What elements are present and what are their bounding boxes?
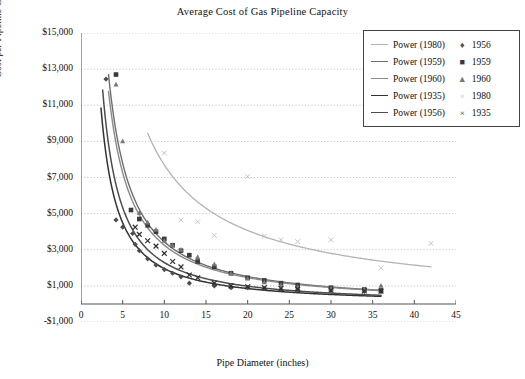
y-tick-label: $7,000 xyxy=(0,172,73,182)
fit-curve-power-1960 xyxy=(109,91,382,290)
y-tick-label: $9,000 xyxy=(0,135,73,145)
y-tick-label: $11,000 xyxy=(0,99,73,109)
fit-curve-power-1959 xyxy=(109,74,382,290)
legend-marker-label: 1959 xyxy=(472,57,491,67)
marker-triangle xyxy=(120,139,125,144)
legend-marker-entry[interactable]: ♦1956 xyxy=(456,40,513,50)
marker-triangle xyxy=(378,283,383,288)
legend-line-swatch xyxy=(371,112,388,113)
legend-line-label: Power (1956) xyxy=(393,108,445,118)
legend-marker-glyph: × xyxy=(456,91,469,101)
fit-curve-power-1980 xyxy=(148,133,431,267)
marker-diamond xyxy=(187,281,192,286)
legend-marker-entry[interactable]: ×1980 xyxy=(456,91,513,101)
marker-diamond xyxy=(103,76,108,81)
legend-line-label: Power (1960) xyxy=(393,74,445,84)
marker-diamond xyxy=(113,217,118,222)
legend-line-label: Power (1980) xyxy=(393,40,445,50)
legend-line-label: Power (1959) xyxy=(393,57,445,67)
y-tick-label: $13,000 xyxy=(0,63,73,73)
marker-square xyxy=(137,217,142,222)
legend-marker-label: 1960 xyxy=(472,74,491,84)
legend-line-entry[interactable]: Power (1960) xyxy=(371,74,456,84)
data-series-1956 xyxy=(103,76,383,294)
legend-row[interactable]: Power (1980)♦1956 xyxy=(371,36,513,53)
legend-row[interactable]: Power (1935)×1980 xyxy=(371,87,513,104)
marker-triangle xyxy=(195,254,200,259)
legend-line-entry[interactable]: Power (1956) xyxy=(371,108,456,118)
legend-line-swatch xyxy=(371,44,388,45)
legend-line-swatch xyxy=(371,78,388,79)
marker-triangle xyxy=(113,82,118,87)
y-tick-label: $1,000 xyxy=(0,280,73,290)
legend-line-swatch xyxy=(371,61,388,62)
y-tick-label: $5,000 xyxy=(0,208,73,218)
legend-marker-label: 1980 xyxy=(472,91,491,101)
data-series-1959 xyxy=(114,72,384,292)
legend-line-label: Power (1935) xyxy=(393,91,445,101)
legend-marker-entry[interactable]: ×1935 xyxy=(456,108,513,118)
legend-marker-glyph: ■ xyxy=(456,57,469,67)
data-series-1960 xyxy=(113,82,383,292)
legend-row[interactable]: Power (1960)▲1960 xyxy=(371,70,513,87)
fit-curve-power-1935 xyxy=(101,108,381,296)
legend-marker-glyph: × xyxy=(456,108,469,118)
legend-marker-label: 1956 xyxy=(472,40,491,50)
legend-line-swatch xyxy=(371,95,388,96)
legend-line-entry[interactable]: Power (1959) xyxy=(371,57,456,67)
chart-legend: Power (1980)♦1956Power (1959)■1959Power … xyxy=(363,30,520,127)
legend-line-entry[interactable]: Power (1980) xyxy=(371,40,456,50)
y-tick-label: $15,000 xyxy=(0,27,73,37)
legend-marker-glyph: ♦ xyxy=(456,40,469,50)
marker-square xyxy=(195,259,200,264)
fit-curve-power-1956 xyxy=(103,90,381,295)
legend-line-entry[interactable]: Power (1935) xyxy=(371,91,456,101)
data-series-1980 xyxy=(162,151,433,270)
chart-title: Average Cost of Gas Pipeline Capacity xyxy=(0,6,525,17)
legend-marker-entry[interactable]: ■1959 xyxy=(456,57,513,67)
legend-row[interactable]: Power (1959)■1959 xyxy=(371,53,513,70)
y-axis-title: Cost per Pipeline Cross Section per Mile xyxy=(0,0,3,96)
marker-square xyxy=(187,253,192,258)
marker-triangle xyxy=(212,261,217,266)
legend-marker-glyph: ▲ xyxy=(456,74,469,84)
y-tick-label: $3,000 xyxy=(0,244,73,254)
x-axis-title: Pipe Diameter (inches) xyxy=(0,357,525,368)
chart-container: Average Cost of Gas Pipeline Capacity Co… xyxy=(0,0,525,379)
marker-square xyxy=(129,208,134,213)
legend-row[interactable]: Power (1956)×1935 xyxy=(371,104,513,121)
legend-marker-label: 1935 xyxy=(472,108,491,118)
marker-square xyxy=(114,72,119,77)
legend-marker-entry[interactable]: ▲1960 xyxy=(456,74,513,84)
